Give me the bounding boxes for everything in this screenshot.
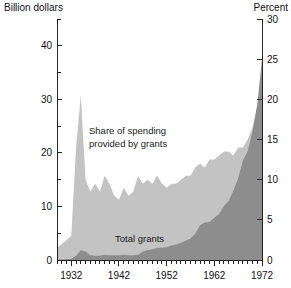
svg-text:1962: 1962 [203, 270, 226, 281]
svg-text:10: 10 [41, 201, 53, 212]
svg-text:1972: 1972 [251, 270, 274, 281]
share-of-spending-annotation-line1: Share of spending [89, 125, 166, 136]
svg-text:1932: 1932 [60, 270, 83, 281]
svg-text:10: 10 [267, 174, 279, 185]
svg-text:0: 0 [267, 255, 273, 266]
svg-text:1952: 1952 [156, 270, 179, 281]
svg-text:15: 15 [267, 134, 279, 145]
svg-text:30: 30 [267, 14, 279, 25]
chart-plot-area: 0102030400510152025301932194219521962197… [0, 0, 291, 288]
svg-text:30: 30 [41, 94, 53, 105]
svg-text:0: 0 [46, 255, 52, 266]
svg-text:20: 20 [41, 147, 53, 158]
svg-text:20: 20 [267, 94, 279, 105]
svg-text:5: 5 [267, 214, 273, 225]
total-grants-annotation: Total grants [115, 233, 164, 244]
chart-container: Billion dollars Percent 0102030400510152… [0, 0, 291, 288]
svg-text:40: 40 [41, 40, 53, 51]
share-of-spending-annotation-line2: provided by grants [89, 138, 167, 149]
svg-text:25: 25 [267, 54, 279, 65]
svg-text:1942: 1942 [108, 270, 131, 281]
